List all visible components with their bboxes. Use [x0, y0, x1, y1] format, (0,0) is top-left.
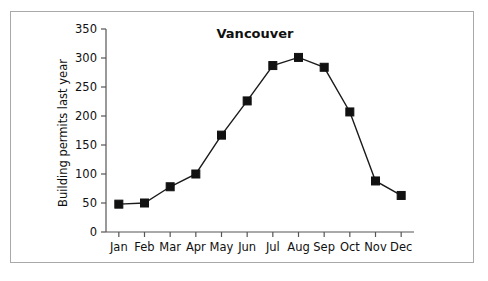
data-point-marker	[115, 200, 123, 208]
y-tick-label: 350	[75, 22, 97, 36]
data-point-marker	[218, 131, 226, 139]
data-point-marker	[372, 177, 380, 185]
y-axis-label: Building permits last year	[56, 59, 70, 207]
data-point-marker	[295, 53, 303, 61]
data-series-group	[115, 53, 405, 208]
x-tick-label: Aug	[287, 240, 309, 254]
x-tick-label: Jun	[237, 240, 256, 254]
x-tick-label: May	[210, 240, 234, 254]
x-tick-label: Jan	[109, 240, 128, 254]
y-tick-label: 100	[75, 167, 97, 181]
y-axis-tick-marks	[101, 29, 106, 232]
x-tick-label: Oct	[340, 240, 360, 254]
y-axis-tick-labels: 050100150200250300350	[75, 22, 97, 239]
y-tick-label: 50	[82, 196, 97, 210]
x-tick-label: Apr	[186, 240, 206, 254]
figure-root: Vancouver Building permits last year 050…	[0, 0, 488, 281]
x-tick-label: Feb	[134, 240, 154, 254]
data-point-marker	[320, 63, 328, 71]
x-tick-label: Dec	[390, 240, 412, 254]
line-chart: Vancouver Building permits last year 050…	[0, 0, 488, 281]
series-line	[119, 57, 401, 204]
data-point-marker	[166, 183, 174, 191]
data-point-marker	[192, 170, 200, 178]
y-tick-label: 200	[75, 109, 97, 123]
x-tick-label: Sep	[313, 240, 335, 254]
y-tick-label: 250	[75, 80, 97, 94]
series-markers	[115, 53, 405, 208]
data-point-marker	[269, 62, 277, 70]
y-tick-label: 0	[90, 225, 97, 239]
y-tick-label: 300	[75, 51, 97, 65]
data-point-marker	[397, 191, 405, 199]
data-point-marker	[243, 97, 251, 105]
x-tick-label: Nov	[364, 240, 387, 254]
chart-title-group: Vancouver	[217, 26, 295, 41]
x-tick-label: Jul	[265, 240, 280, 254]
y-axis-title-group: Building permits last year	[56, 59, 70, 207]
x-axis-tick-labels: JanFebMarAprMayJunJulAugSepOctNovDec	[109, 240, 412, 254]
data-point-marker	[346, 108, 354, 116]
chart-title: Vancouver	[217, 26, 295, 41]
y-tick-label: 150	[75, 138, 97, 152]
data-point-marker	[141, 199, 149, 207]
x-axis-tick-marks	[119, 232, 401, 237]
x-tick-label: Mar	[159, 240, 181, 254]
